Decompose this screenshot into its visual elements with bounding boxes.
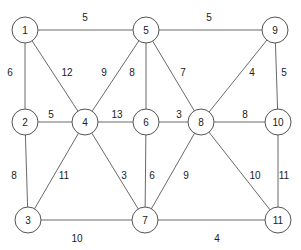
node-label: 9	[272, 25, 278, 36]
node-3: 3	[15, 207, 41, 233]
edge-weight-label-5-9: 5	[206, 12, 212, 23]
edge-weight-label-1-4: 12	[61, 67, 73, 78]
edge-2-3	[25, 122, 28, 220]
node-label: 11	[273, 215, 284, 226]
node-8: 8	[188, 109, 214, 135]
edge-weight-label-5-6: 8	[129, 67, 135, 78]
edge-weight-label-4-6: 13	[111, 109, 123, 120]
node-10: 10	[265, 109, 291, 135]
node-9: 9	[262, 17, 288, 43]
edge-1-4	[25, 30, 85, 122]
edge-weight-label-5-4: 9	[101, 67, 107, 78]
edge-weight-label-6-8: 3	[176, 109, 182, 120]
node-label: 2	[22, 117, 28, 128]
node-label: 5	[143, 25, 149, 36]
edge-weight-label-8-10: 8	[242, 109, 248, 120]
edge-weight-label-2-3: 8	[11, 170, 17, 181]
node-label: 6	[143, 117, 149, 128]
node-label: 4	[82, 117, 88, 128]
node-label: 3	[25, 215, 31, 226]
node-7: 7	[132, 207, 158, 233]
edge-weight-label-2-4: 5	[48, 109, 54, 120]
node-label: 10	[272, 117, 284, 128]
node-6: 6	[133, 109, 159, 135]
edge-9-10	[275, 30, 278, 122]
edge-weight-label-9-10: 5	[281, 67, 287, 78]
edge-weight-label-8-7: 9	[183, 170, 189, 181]
edge-weight-label-5-8: 7	[180, 67, 186, 78]
edge-weight-label-9-8: 4	[249, 67, 255, 78]
node-5: 5	[133, 17, 159, 43]
edge-weight-label-8-11: 10	[249, 170, 261, 181]
edge-weight-label-1-2: 6	[7, 67, 13, 78]
edge-5-8	[146, 30, 201, 122]
node-label: 7	[142, 215, 148, 226]
edge-4-3	[28, 122, 85, 220]
edge-weight-label-6-7: 6	[149, 170, 155, 181]
edge-8-11	[201, 122, 278, 220]
node-label: 8	[198, 117, 204, 128]
node-1: 1	[12, 17, 38, 43]
nodes-layer: 1234567891011	[12, 17, 291, 233]
edge-4-7	[85, 122, 145, 220]
edge-weight-label-1-5: 5	[82, 12, 88, 23]
edge-6-7	[145, 122, 146, 220]
edge-weight-label-7-11: 4	[214, 233, 220, 244]
node-2: 2	[12, 109, 38, 135]
edge-weight-label-10-11: 11	[279, 170, 290, 181]
edge-9-8	[201, 30, 275, 122]
edge-weight-label-4-3: 11	[59, 170, 70, 181]
node-11: 11	[265, 207, 291, 233]
node-label: 1	[22, 25, 28, 36]
edge-weight-label-4-7: 3	[121, 170, 127, 181]
edge-weight-label-3-7: 10	[71, 233, 83, 244]
graph-diagram: 5561298745513388113691011104 12345678910…	[0, 0, 301, 250]
node-4: 4	[72, 109, 98, 135]
